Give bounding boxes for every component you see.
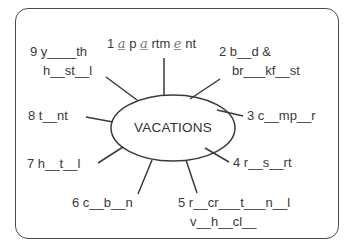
item-9-line-1: 9 y____th xyxy=(30,44,87,60)
item-6: 6 c__b__n xyxy=(72,195,133,211)
center-label: VACATIONS xyxy=(120,120,226,135)
item-5-line-1: 5 r__cr___t___n__l xyxy=(178,195,290,211)
item-8: 8 t__nt xyxy=(28,108,68,124)
item-5-line-2: v__h__cl__ xyxy=(190,214,257,230)
spoke-6 xyxy=(138,160,152,194)
item-3: 3 c__mp__r xyxy=(247,108,316,124)
item-4: 4 r__s__rt xyxy=(233,155,292,171)
item-2-line-2: br___kf__st xyxy=(232,63,300,79)
spoke-2 xyxy=(190,79,220,99)
filled-letter: a xyxy=(140,36,148,51)
item-7: 7 h__t__l xyxy=(27,156,81,172)
spoke-8 xyxy=(86,117,113,122)
filled-letter: a xyxy=(118,36,126,51)
filled-letter: e xyxy=(174,36,182,51)
item-2-line-1: 2 b__d & xyxy=(219,44,271,60)
item-1-text-a: 1 xyxy=(107,36,118,51)
item-1-text-b: p xyxy=(126,36,140,51)
item-1-text-c: rtm xyxy=(148,36,174,51)
spoke-5 xyxy=(186,160,197,193)
item-1-apartment: 1 a p a rtm e nt xyxy=(107,36,196,52)
spoke-9 xyxy=(106,77,137,100)
item-9-line-2: h__st__l xyxy=(43,63,92,79)
spoke-7 xyxy=(98,147,123,163)
item-1-text-d: nt xyxy=(182,36,196,51)
